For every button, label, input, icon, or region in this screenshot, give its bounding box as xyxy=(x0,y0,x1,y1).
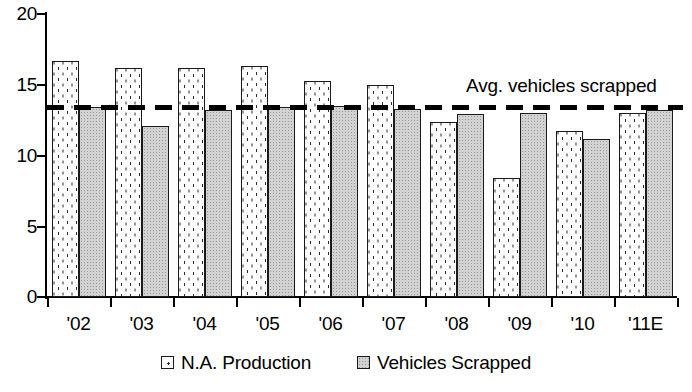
dotted-square-icon xyxy=(161,356,174,369)
legend-item-na-production: N.A. Production xyxy=(161,352,311,373)
x-tick-09 xyxy=(551,298,553,307)
x-tick-05 xyxy=(299,298,301,307)
x-tick-04 xyxy=(236,298,238,307)
x-axis-label-07: '07 xyxy=(362,313,425,335)
x-axis-label-04: '04 xyxy=(173,313,236,335)
x-tick-10 xyxy=(614,298,616,307)
x-axis-label-11E: '11E xyxy=(614,313,677,335)
y-tick-label-0: 0 xyxy=(3,287,37,306)
y-tick-label-20: 20 xyxy=(3,4,37,23)
x-axis-label-09: '09 xyxy=(488,313,551,335)
x-tick-07 xyxy=(425,298,427,307)
bar-scrapped-10 xyxy=(583,139,610,297)
x-axis-label-10: '10 xyxy=(551,313,614,335)
gray-square-icon xyxy=(357,356,370,369)
bar-production-08 xyxy=(430,122,457,297)
legend-item-vehicles-scrapped: Vehicles Scrapped xyxy=(357,352,531,373)
x-axis-label-02: '02 xyxy=(47,313,110,335)
bar-scrapped-09 xyxy=(520,113,547,297)
y-tick-label-15: 15 xyxy=(3,75,37,94)
vehicle-production-scrappage-chart: 20 15 10 5 0 '02'03'04'05'06'07'08'09'10… xyxy=(0,0,692,392)
bar-production-04 xyxy=(178,68,205,297)
x-tick-02 xyxy=(110,298,112,307)
bar-scrapped-05 xyxy=(268,107,295,297)
bar-production-05 xyxy=(241,66,268,297)
bar-production-02 xyxy=(52,61,79,297)
legend-label-vehicles-scrapped: Vehicles Scrapped xyxy=(377,352,531,373)
y-tick-label-10: 10 xyxy=(3,146,37,165)
bar-scrapped-04 xyxy=(205,110,232,297)
x-axis-label-03: '03 xyxy=(110,313,173,335)
x-tick-origin xyxy=(47,298,49,307)
avg-vehicles-scrapped-line xyxy=(47,105,683,110)
x-tick-08 xyxy=(488,298,490,307)
bar-production-03 xyxy=(115,68,142,297)
x-axis-label-05: '05 xyxy=(236,313,299,335)
x-tick-06 xyxy=(362,298,364,307)
bar-scrapped-02 xyxy=(79,107,106,297)
bar-production-11E xyxy=(619,113,646,297)
bar-production-06 xyxy=(304,81,331,297)
y-tick-15 xyxy=(37,84,45,86)
y-tick-5 xyxy=(37,226,45,228)
x-axis-label-08: '08 xyxy=(425,313,488,335)
bar-scrapped-03 xyxy=(142,126,169,297)
chart-legend: N.A. Production Vehicles Scrapped xyxy=(0,352,692,373)
bar-scrapped-11E xyxy=(646,110,673,297)
x-axis-label-06: '06 xyxy=(299,313,362,335)
y-tick-10 xyxy=(37,155,45,157)
source-note-strip xyxy=(0,383,692,392)
y-axis-labels: 20 15 10 5 0 xyxy=(0,0,37,392)
y-tick-20 xyxy=(37,13,45,15)
x-tick-11E xyxy=(677,298,679,307)
x-tick-03 xyxy=(173,298,175,307)
bar-scrapped-06 xyxy=(331,106,358,297)
bar-production-09 xyxy=(493,178,520,297)
bar-scrapped-08 xyxy=(457,114,484,297)
bar-production-10 xyxy=(556,131,583,297)
y-axis-line xyxy=(45,12,47,299)
bar-production-07 xyxy=(367,85,394,297)
bar-scrapped-07 xyxy=(394,109,421,297)
y-tick-label-5: 5 xyxy=(3,217,37,236)
avg-vehicles-scrapped-label: Avg. vehicles scrapped xyxy=(466,75,657,96)
y-tick-0 xyxy=(37,296,45,298)
legend-label-na-production: N.A. Production xyxy=(181,352,311,373)
